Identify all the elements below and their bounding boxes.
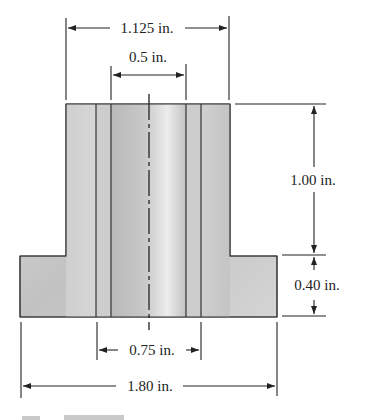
label-flange-height: 0.40 in. bbox=[294, 277, 339, 293]
label-flange-width: 1.80 in. bbox=[127, 378, 172, 394]
label-upper-height: 1.00 in. bbox=[290, 172, 335, 188]
sleeve-drawing: 1.125 in. 0.5 in. 1.00 in. 0.40 in. 0.75 bbox=[0, 0, 369, 420]
part-body bbox=[20, 94, 277, 330]
dim-flange-height: 0.40 in. bbox=[282, 257, 340, 316]
label-bore-width: 0.5 in. bbox=[129, 49, 167, 65]
dim-bore-width: 0.5 in. bbox=[111, 49, 186, 100]
label-inner-width: 0.75 in. bbox=[129, 342, 174, 358]
dim-flange-width: 1.80 in. bbox=[21, 322, 277, 398]
label-top-width: 1.125 in. bbox=[121, 20, 174, 36]
caption-fragment bbox=[22, 415, 124, 420]
dim-upper-height: 1.00 in. bbox=[235, 104, 336, 255]
